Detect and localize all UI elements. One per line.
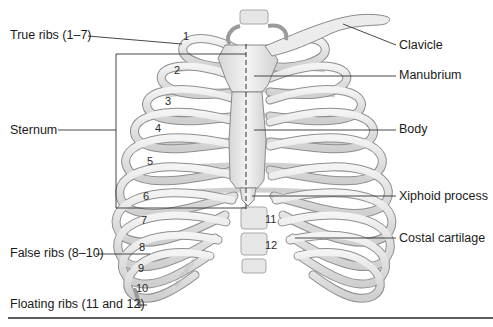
bottom-divider <box>8 317 493 319</box>
rib-number-12: 12 <box>265 239 277 251</box>
label-sternum: Sternum <box>10 123 57 137</box>
label-clavicle: Clavicle <box>399 38 443 52</box>
rib-number-3: 3 <box>165 95 171 107</box>
xiphoid-shape <box>240 188 256 206</box>
label-true-ribs: True ribs (1–7) <box>10 28 92 42</box>
label-false-ribs: False ribs (8–10) <box>10 246 104 260</box>
rib-number-2: 2 <box>174 64 180 76</box>
rib-number-6: 6 <box>143 190 149 202</box>
rib-number-4: 4 <box>155 122 161 134</box>
rib-cage-diagram: True ribs (1–7) Sternum False ribs (8–10… <box>0 0 493 327</box>
rib-number-9: 9 <box>138 262 144 274</box>
label-xiphoid-process: Xiphoid process <box>399 189 488 203</box>
label-body: Body <box>399 122 428 136</box>
rib-number-8: 8 <box>139 241 145 253</box>
rib-number-5: 5 <box>147 155 153 167</box>
right-ribs <box>270 39 392 299</box>
rib-number-1: 1 <box>183 30 189 42</box>
rib-number-10: 10 <box>136 282 148 294</box>
rib-number-11: 11 <box>265 213 276 225</box>
label-costal-cartilage: Costal cartilage <box>399 231 485 245</box>
sternum-body-shape <box>229 92 266 188</box>
rib-number-7: 7 <box>141 214 147 226</box>
label-manubrium: Manubrium <box>399 68 462 82</box>
left-ribs <box>116 39 238 306</box>
label-floating-ribs: Floating ribs (11 and 12) <box>10 297 145 311</box>
